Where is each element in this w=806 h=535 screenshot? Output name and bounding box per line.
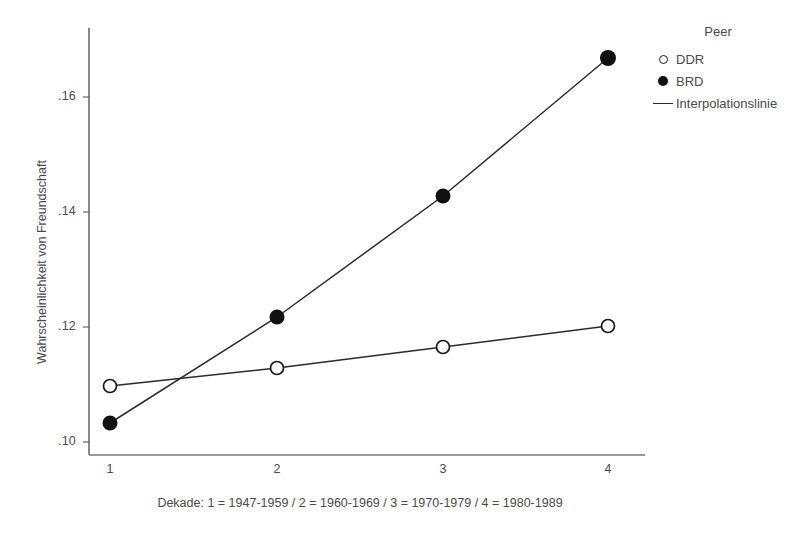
legend-label-brd: BRD (676, 74, 703, 89)
series-line-brd (110, 58, 608, 423)
legend-item-interpolation: Interpolationslinie (650, 92, 806, 114)
data-point-brd-4 (600, 50, 616, 66)
chart-figure: .16 .14 .12 .10 1 2 3 4 Wahrscheinlichke… (0, 0, 806, 535)
legend-label-ddr: DDR (676, 52, 704, 67)
legend-label-interpolation: Interpolationslinie (676, 96, 777, 111)
x-tick-label-1: 1 (95, 462, 125, 476)
series-line-ddr (110, 326, 608, 386)
x-axis-caption: Dekade: 1 = 1947-1959 / 2 = 1960-1969 / … (0, 496, 720, 510)
data-point-brd-2 (270, 310, 285, 325)
x-tick-label-4: 4 (593, 462, 623, 476)
legend-item-ddr: DDR (650, 48, 806, 70)
legend-title: Peer (658, 24, 778, 39)
chart-legend: Peer DDR BRD Interpolationslinie (650, 24, 806, 114)
x-tick-label-3: 3 (428, 462, 458, 476)
y-tick-marks (83, 97, 89, 442)
data-point-ddr-4 (602, 320, 615, 333)
data-point-ddr-2 (271, 362, 284, 375)
open-circle-icon (650, 55, 676, 64)
legend-item-brd: BRD (650, 70, 806, 92)
data-point-ddr-3 (437, 341, 450, 354)
series-markers-brd (103, 50, 617, 431)
data-point-brd-1 (103, 416, 118, 431)
x-tick-label-2: 2 (262, 462, 292, 476)
filled-circle-icon (650, 76, 676, 86)
y-tick-label-016: .16 (36, 89, 76, 103)
data-point-brd-3 (436, 189, 451, 204)
data-point-ddr-1 (104, 380, 117, 393)
line-icon (650, 103, 676, 104)
series-markers-ddr (104, 320, 615, 393)
y-tick-label-010: .10 (36, 434, 76, 448)
y-axis-title: Wahrscheinlichkeit von Freundschaft (35, 132, 49, 392)
